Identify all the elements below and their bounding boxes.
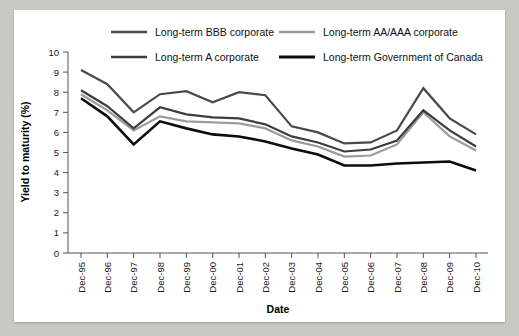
legend-label-a-corporate: Long-term A corporate	[155, 51, 259, 63]
chart-legend: Long-term BBB corporate Long-term AA/AAA…	[111, 26, 483, 63]
legend-item-2: Long-term A corporate	[111, 51, 259, 63]
y-tick-label: 0	[54, 248, 59, 259]
x-tick-label: Dec-09	[444, 262, 455, 293]
y-axis-ticks: 012345678910	[48, 47, 68, 259]
legend-label-bbb-corporate: Long-term BBB corporate	[155, 26, 274, 38]
x-tick-label: Dec-05	[339, 262, 350, 293]
y-tick-label: 7	[54, 107, 59, 118]
x-tick-label: Dec-98	[155, 262, 166, 293]
x-tick-label: Dec-99	[181, 262, 192, 293]
x-tick-label: Dec-07	[392, 262, 403, 293]
x-tick-label: Dec-02	[260, 262, 271, 293]
y-tick-label: 10	[48, 47, 59, 58]
yield-to-maturity-line-chart: Long-term BBB corporate Long-term AA/AAA…	[14, 10, 505, 322]
y-tick-label: 8	[54, 87, 59, 98]
y-tick-label: 6	[54, 127, 59, 138]
legend-item-1: Long-term AA/AAA corporate	[279, 26, 458, 38]
x-tick-label: Dec-03	[286, 262, 297, 293]
chart-figure: Long-term BBB corporate Long-term AA/AAA…	[14, 10, 505, 322]
legend-label-aa-aaa-corporate: Long-term AA/AAA corporate	[323, 26, 458, 38]
x-tick-label: Dec-00	[207, 262, 218, 293]
y-axis-title: Yield to maturity (%)	[19, 101, 31, 202]
series-line-0	[81, 70, 476, 143]
x-tick-label: Dec-96	[102, 262, 113, 293]
x-tick-label: Dec-01	[234, 262, 245, 293]
x-tick-label: Dec-06	[365, 262, 376, 293]
legend-item-3: Long-term Government of Canada	[279, 51, 483, 63]
chart-axes	[68, 52, 488, 253]
x-tick-label: Dec-10	[471, 262, 482, 293]
x-tick-label: Dec-04	[313, 262, 324, 293]
series-line-1	[81, 94, 476, 156]
y-tick-label: 9	[54, 67, 59, 78]
y-tick-label: 5	[54, 147, 59, 158]
legend-label-government-of-canada: Long-term Government of Canada	[323, 51, 483, 63]
y-tick-label: 2	[54, 207, 59, 218]
legend-item-0: Long-term BBB corporate	[111, 26, 274, 38]
y-tick-label: 1	[54, 227, 59, 238]
x-tick-label: Dec-08	[418, 262, 429, 293]
x-tick-label: Dec-95	[76, 262, 87, 293]
y-tick-label: 4	[54, 167, 59, 178]
x-axis-title: Date	[267, 303, 290, 315]
x-tick-label: Dec-97	[128, 262, 139, 293]
y-tick-label: 3	[54, 187, 59, 198]
chart-series-group	[81, 70, 476, 171]
x-axis-ticks: Dec-95Dec-96Dec-97Dec-98Dec-99Dec-00Dec-…	[76, 253, 482, 293]
